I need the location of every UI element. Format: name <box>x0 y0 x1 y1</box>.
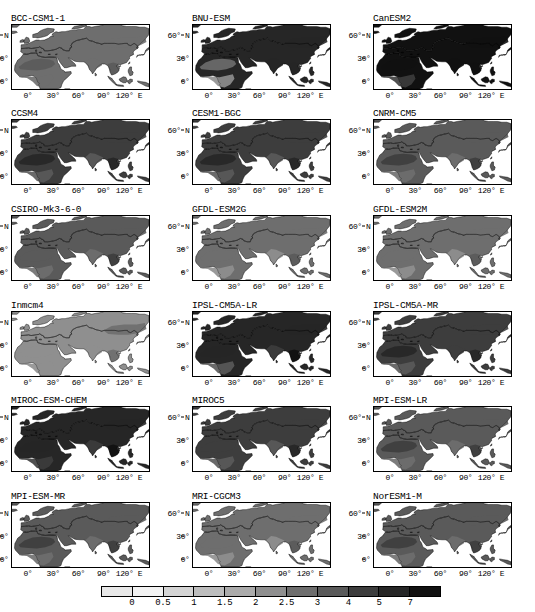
longitude-tick-label: 60° <box>72 282 85 291</box>
panel-title: CESM1-BGC <box>192 109 241 119</box>
latitude-tick-label: 30° <box>357 149 370 158</box>
latitude-tick-label: 30° <box>0 149 9 158</box>
latitude-tick-label: 30° <box>0 54 9 63</box>
longitude-axis: 0°30°60°90°120° E <box>11 569 150 581</box>
longitude-tick-label: 120° E <box>297 473 323 482</box>
panel-title: IPSL-CM5A-MR <box>373 301 438 311</box>
colorbar-segment <box>256 587 287 596</box>
longitude-tick-label: 120° E <box>116 186 142 195</box>
colorbar-tick-label: 3 <box>315 598 320 608</box>
latitude-tick-label: 0° <box>0 76 9 85</box>
latitude-tick-label: 0° <box>181 171 190 180</box>
shaded-contour-map <box>12 120 149 184</box>
longitude-tick-label: 120° E <box>116 282 142 291</box>
longitude-tick-label: 90° <box>278 569 291 578</box>
longitude-tick-label: 90° <box>459 91 472 100</box>
longitude-tick-label: 0° <box>385 186 394 195</box>
longitude-tick-label: 120° E <box>478 91 504 100</box>
shaded-contour-map <box>374 120 511 184</box>
longitude-axis: 0°30°60°90°120° E <box>11 91 150 103</box>
panel-title: MIROC-ESM-CHEM <box>11 396 87 406</box>
latitude-axis: 60° N30°0° <box>362 119 373 185</box>
latitude-axis: 60° N30°0° <box>0 502 11 568</box>
longitude-tick-label: 90° <box>278 91 291 100</box>
colorbar-segment <box>164 587 195 596</box>
shaded-contour-map <box>374 216 511 280</box>
latitude-tick-label: 60° N <box>0 318 9 327</box>
colorbar-tick-label: 0.5 <box>155 598 170 608</box>
latitude-tick-label: 0° <box>0 363 9 372</box>
latitude-tick-label: 30° <box>357 245 370 254</box>
model-panel: CESM1-BGC60° N30°0°0°30°60°90°120° E <box>181 109 351 205</box>
panel-title: BNU-ESM <box>192 14 230 24</box>
longitude-tick-label: 60° <box>72 186 85 195</box>
colorbar-tick-label: 1.5 <box>217 598 232 608</box>
longitude-tick-label: 0° <box>23 282 32 291</box>
colorbar-segment <box>318 587 349 596</box>
model-panel: CSIRO-Mk3-6-060° N30°0°0°30°60°90°120° E <box>0 205 170 301</box>
latitude-tick-label: 0° <box>181 458 190 467</box>
latitude-tick-label: 60° N <box>0 31 9 40</box>
shaded-contour-map <box>193 120 330 184</box>
longitude-tick-label: 60° <box>434 91 447 100</box>
latitude-axis: 60° N30°0° <box>181 24 192 90</box>
longitude-tick-label: 0° <box>23 569 32 578</box>
longitude-axis: 0°30°60°90°120° E <box>373 91 512 103</box>
shaded-contour-map <box>374 503 511 567</box>
map-plot-area <box>373 311 512 377</box>
latitude-axis: 60° N30°0° <box>362 24 373 90</box>
longitude-tick-label: 0° <box>23 378 32 387</box>
latitude-tick-label: 0° <box>0 267 9 276</box>
model-panel: BCC-CSM1-160° N30°0°0°30°60°90°120° E <box>0 14 170 110</box>
latitude-tick-label: 0° <box>0 554 9 563</box>
map-plot-area <box>373 406 512 472</box>
longitude-axis: 0°30°60°90°120° E <box>192 282 331 294</box>
longitude-tick-label: 90° <box>278 282 291 291</box>
longitude-tick-label: 60° <box>434 473 447 482</box>
longitude-tick-label: 30° <box>228 186 241 195</box>
longitude-axis: 0°30°60°90°120° E <box>373 186 512 198</box>
shaded-contour-map <box>12 216 149 280</box>
latitude-tick-label: 30° <box>357 341 370 350</box>
longitude-tick-label: 90° <box>97 186 110 195</box>
model-panel: MPI-ESM-MR60° N30°0°0°30°60°90°120° E <box>0 492 170 588</box>
latitude-tick-label: 60° N <box>348 413 370 422</box>
map-plot-area <box>373 502 512 568</box>
longitude-tick-label: 90° <box>459 378 472 387</box>
map-plot-area <box>373 215 512 281</box>
latitude-tick-label: 60° N <box>348 318 370 327</box>
colorbar-segment <box>287 587 318 596</box>
longitude-tick-label: 120° E <box>297 91 323 100</box>
map-plot-area <box>373 24 512 90</box>
latitude-tick-label: 60° N <box>348 222 370 231</box>
latitude-tick-label: 30° <box>357 532 370 541</box>
panel-title: IPSL-CM5A-LR <box>192 301 257 311</box>
longitude-tick-label: 60° <box>253 569 266 578</box>
longitude-tick-label: 120° E <box>478 186 504 195</box>
panel-title: GFDL-ESM2G <box>192 205 246 215</box>
longitude-tick-label: 30° <box>228 569 241 578</box>
longitude-tick-label: 60° <box>434 282 447 291</box>
longitude-tick-label: 0° <box>204 186 213 195</box>
latitude-tick-label: 60° N <box>167 509 189 518</box>
longitude-tick-label: 30° <box>47 569 60 578</box>
longitude-tick-label: 60° <box>253 91 266 100</box>
latitude-tick-label: 0° <box>362 267 371 276</box>
model-panel: CanESM260° N30°0°0°30°60°90°120° E <box>362 14 532 110</box>
latitude-tick-label: 0° <box>0 458 9 467</box>
longitude-tick-label: 30° <box>409 378 422 387</box>
latitude-tick-label: 30° <box>176 532 189 541</box>
map-plot-area <box>192 406 331 472</box>
longitude-tick-label: 60° <box>72 473 85 482</box>
latitude-tick-label: 30° <box>0 245 9 254</box>
longitude-tick-label: 60° <box>253 378 266 387</box>
longitude-axis: 0°30°60°90°120° E <box>192 186 331 198</box>
colorbar-segment <box>194 587 225 596</box>
shaded-contour-map <box>374 407 511 471</box>
latitude-tick-label: 0° <box>362 171 371 180</box>
latitude-tick-label: 30° <box>357 54 370 63</box>
latitude-tick-label: 30° <box>357 436 370 445</box>
latitude-axis: 60° N30°0° <box>362 502 373 568</box>
panel-title: MIROC5 <box>192 396 224 406</box>
longitude-tick-label: 30° <box>228 473 241 482</box>
